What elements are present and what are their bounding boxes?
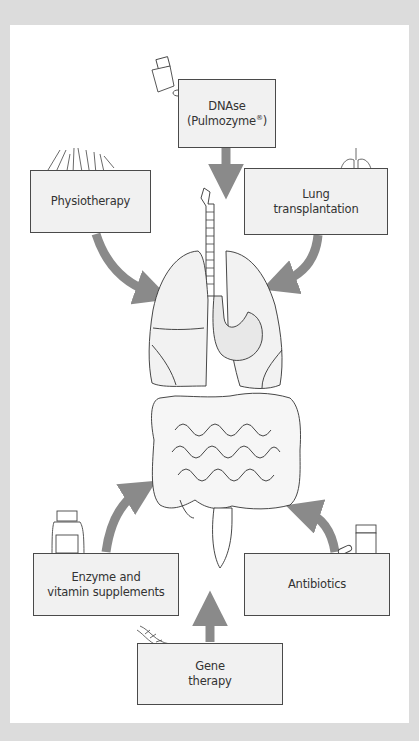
treatment-label: Enzyme and <box>72 570 141 585</box>
treatment-box-antibiotics: Antibiotics <box>244 553 390 616</box>
treatment-label: transplantation <box>274 202 359 217</box>
treatment-box-gene-therapy: Gene therapy <box>137 643 283 705</box>
treatment-label: therapy <box>188 674 231 689</box>
treatment-box-enzyme-vitamin: Enzyme and vitamin supplements <box>33 553 179 616</box>
arrow-lung-transplant <box>282 235 318 282</box>
treatment-label: Gene <box>195 659 225 674</box>
treatment-label: Physiotherapy <box>51 194 130 209</box>
treatment-label: vitamin supplements <box>47 585 164 600</box>
arrow-antibiotics <box>306 512 335 552</box>
organs-illustration <box>149 188 300 568</box>
treatment-label: DNAse <box>208 99 245 114</box>
treatment-box-lung-transplantation: Lung transplantation <box>244 168 388 235</box>
arrow-physiotherapy <box>96 234 150 292</box>
treatment-label: (Pulmozyme®) <box>187 114 267 129</box>
treatment-box-physiotherapy: Physiotherapy <box>30 170 151 233</box>
treatment-box-dnase: DNAse (Pulmozyme®) <box>178 79 276 148</box>
arrow-enzyme <box>106 492 138 552</box>
treatment-label: Antibiotics <box>288 577 346 592</box>
treatment-label: Lung <box>302 187 329 202</box>
